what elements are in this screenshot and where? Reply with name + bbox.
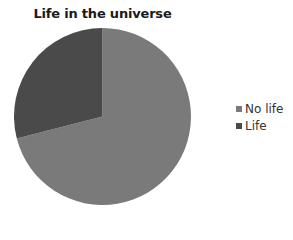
legend-item-no-life: No life — [236, 100, 283, 117]
legend-item-life: Life — [236, 117, 283, 134]
legend-label: No life — [245, 102, 283, 116]
legend-label: Life — [245, 119, 267, 133]
legend-swatch-no-life — [236, 106, 242, 112]
legend: No life Life — [236, 100, 283, 134]
legend-swatch-life — [236, 123, 242, 129]
